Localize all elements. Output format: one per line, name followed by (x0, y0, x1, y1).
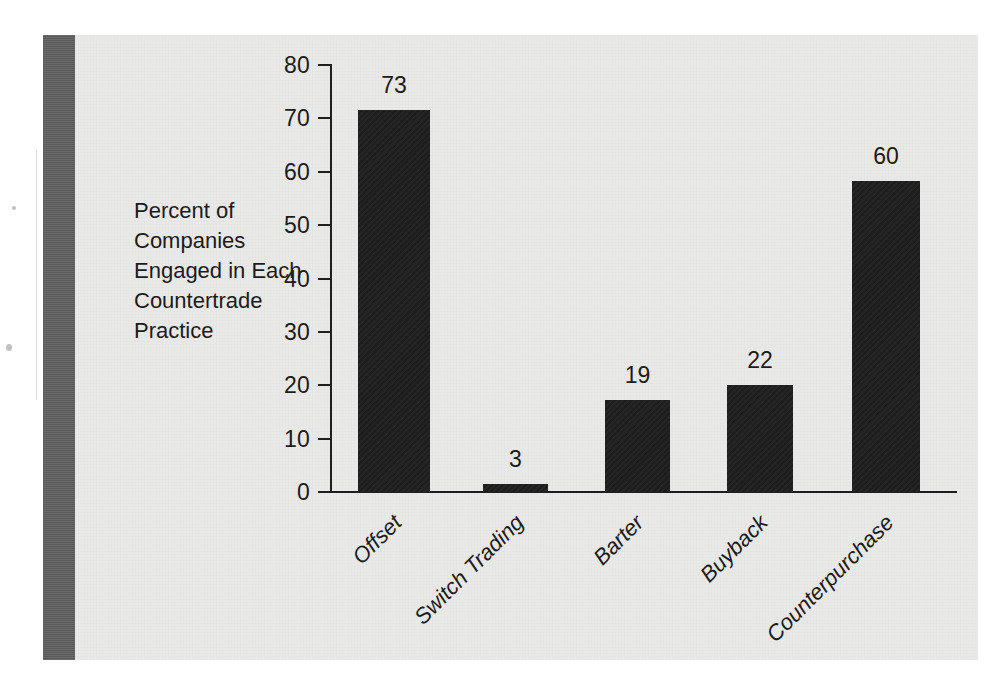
bar (605, 400, 670, 492)
y-axis-tick-mark (318, 384, 330, 386)
bar-value-label: 19 (605, 364, 670, 387)
y-axis-tick-label: 70 (264, 107, 310, 130)
bar (727, 385, 793, 492)
y-axis-tick-mark (318, 224, 330, 226)
y-axis-tick-label: 80 (264, 54, 310, 77)
y-axis-tick-label: 0 (264, 481, 310, 504)
y-axis-line (330, 64, 332, 493)
y-axis-tick-label: 30 (264, 321, 310, 344)
bar-chart-plot: Percent of Companies Engaged in Each Cou… (0, 0, 1008, 697)
y-axis-tick-mark (318, 171, 330, 173)
y-axis-tick-mark (318, 117, 330, 119)
y-axis-tick-mark (318, 491, 330, 493)
bar (358, 110, 430, 492)
bar-value-label: 73 (358, 74, 430, 97)
y-axis-tick-mark (318, 64, 330, 66)
y-axis-tick-label: 40 (264, 268, 310, 291)
bar-value-label: 3 (483, 448, 548, 471)
y-axis-tick-mark (318, 438, 330, 440)
y-axis-tick-mark (318, 278, 330, 280)
y-axis-tick-label: 20 (264, 374, 310, 397)
x-axis-category-label: Barter (590, 511, 648, 569)
figure-root: Percent of Companies Engaged in Each Cou… (0, 0, 1008, 697)
bar (483, 484, 548, 492)
y-axis-tick-mark (318, 331, 330, 333)
x-axis-category-label: Offset (349, 511, 406, 568)
bar (852, 181, 920, 492)
x-axis-category-label: Counterpurchase (763, 511, 898, 646)
y-axis-tick-label: 60 (264, 161, 310, 184)
x-axis-category-label: Buyback (697, 511, 772, 586)
x-axis-category-label: Switch Trading (410, 511, 527, 628)
y-axis-tick-label: 50 (264, 214, 310, 237)
y-axis-tick-label: 10 (264, 428, 310, 451)
y-axis-tick-labels: 80706050403020100 (258, 0, 310, 697)
bar-value-label: 22 (727, 349, 793, 372)
bar-value-label: 60 (852, 145, 920, 168)
